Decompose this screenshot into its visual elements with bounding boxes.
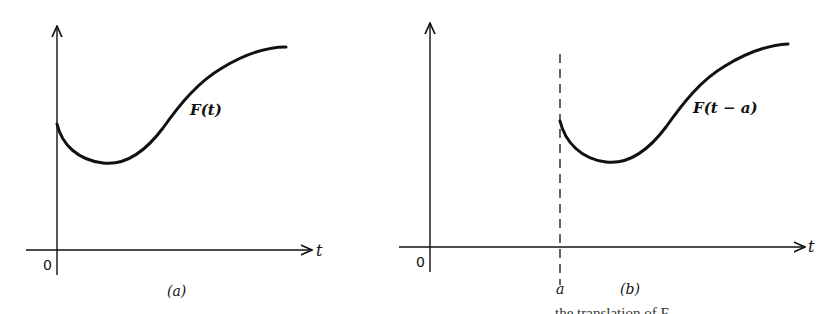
x-axis-label-b: t [808,237,815,256]
panel-a: t 0 F(t) (a) [26,26,323,299]
origin-label-b: 0 [416,254,425,270]
panel-b: t 0 F(t − a) a (b) [399,23,815,297]
x-axis-label-a: t [316,241,323,260]
origin-label-a: 0 [43,257,52,273]
caption-a: (a) [167,283,186,299]
figure-canvas: t 0 F(t) (a) t 0 F(t − a) a (b) [0,0,830,314]
function-label-b: F(t − a) [692,99,758,117]
shift-label-a: a [556,281,564,297]
clipped-caption-text: …the translation of F… [540,306,830,314]
curve-f-of-t [57,47,286,163]
function-label-a: F(t) [189,101,222,119]
caption-b: (b) [620,281,640,297]
